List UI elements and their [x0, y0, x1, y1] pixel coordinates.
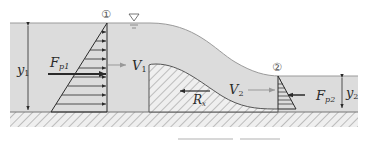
hydraulic-jump-momentum-diagram: y1 y2 Fp1 V1 Rx V2 Fp2 ① ②	[0, 0, 367, 141]
channel-bed	[10, 112, 358, 127]
section-marker-1: ①	[101, 8, 111, 21]
force-point-fp2	[290, 94, 293, 97]
caption-text-faint	[178, 138, 280, 140]
section-marker-2: ②	[272, 61, 282, 74]
